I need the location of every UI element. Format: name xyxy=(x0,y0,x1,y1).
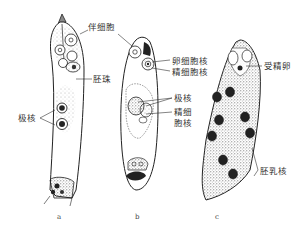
label-sperm-nucleus-line2: 胞核 xyxy=(174,118,192,128)
label-synergid: 伴细胞 xyxy=(88,22,115,32)
label-sperm-nucleus-top: 精细胞核 xyxy=(172,67,208,77)
caption-c: c xyxy=(215,213,219,221)
synergid-cell xyxy=(65,34,77,46)
embryo-sac-diagram xyxy=(0,0,304,233)
antipodal-cells xyxy=(50,177,74,198)
label-zygote: 受精卵 xyxy=(264,61,291,71)
label-egg-nucleus: 卵细胞核 xyxy=(172,56,208,66)
label-endosperm-nucleus: 胚乳核 xyxy=(260,166,287,176)
panel-c-embryo-sac xyxy=(202,40,260,200)
label-polar-nuclei-b: 极核 xyxy=(174,93,192,103)
zygote xyxy=(238,66,243,71)
label-polar-nuclei-a: 极核 xyxy=(18,113,36,123)
panel-a-embryo-sac xyxy=(44,14,84,206)
caption-a: a xyxy=(57,213,61,221)
label-sperm-nucleus-line1: 精细 xyxy=(174,107,192,117)
label-ovule: 胚珠 xyxy=(93,74,111,84)
caption-b: b xyxy=(135,213,139,221)
